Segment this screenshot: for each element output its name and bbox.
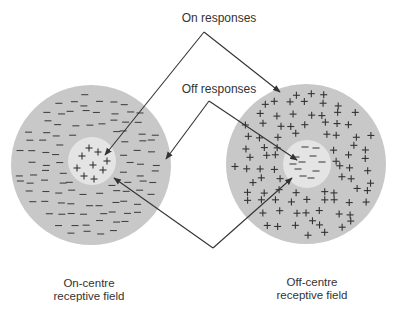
on-centre-caption-line2: receptive field (34, 290, 144, 303)
off-centre-caption-line1: Off-centre (257, 276, 367, 289)
off-centre-receptive-field (226, 84, 386, 244)
on-centre-receptive-field (11, 85, 171, 245)
off-to-left-surround-arrow (166, 101, 209, 159)
on-centre-caption-line1: On-centre (34, 277, 144, 290)
receptive-field-diagram (0, 0, 396, 313)
off-responses-label: Off responses (174, 83, 264, 96)
on-centre-caption: On-centre receptive field (34, 277, 144, 303)
on-responses-label: On responses (174, 12, 264, 25)
off-centre-caption: Off-centre receptive field (257, 276, 367, 302)
off-centre-caption-line2: receptive field (257, 289, 367, 302)
